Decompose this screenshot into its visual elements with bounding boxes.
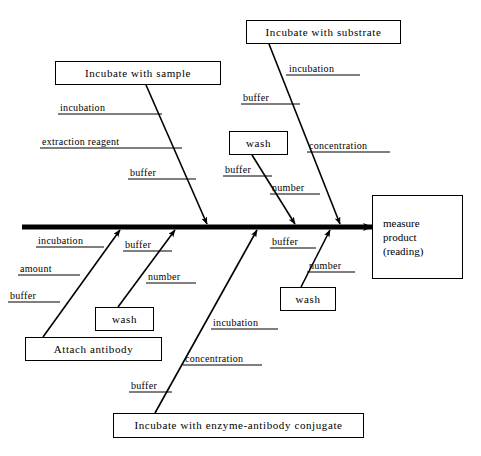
cause-label-attach-antibody-incubation[interactable]: incubation: [38, 236, 83, 246]
cause-label-incubate-with-sample-extraction reagent[interactable]: extraction reagent: [42, 137, 119, 147]
cause-label-wash-upper-number[interactable]: number: [272, 183, 304, 193]
cause-label-incubate-with-substrate-concentration[interactable]: concentration: [309, 141, 367, 151]
effect-line-0: measure: [383, 216, 423, 230]
cause-label-wash-right-buffer[interactable]: buffer: [272, 237, 298, 247]
category-box-wash-upper[interactable]: wash: [229, 131, 288, 155]
fishbone-diagram: Incubate with sampleIncubate with substr…: [0, 0, 481, 456]
effect-line-1: product: [383, 230, 423, 244]
cause-label-attach-antibody-buffer[interactable]: buffer: [10, 291, 36, 301]
category-label: Incubate with enzyme-antibody conjugate: [134, 419, 342, 432]
cause-label-attach-antibody-amount[interactable]: amount: [20, 264, 52, 274]
category-label: wash: [246, 137, 271, 150]
category-label: Incubate with sample: [85, 67, 191, 80]
category-box-incubate-with-sample[interactable]: Incubate with sample: [55, 61, 221, 85]
cause-label-incubate-with-substrate-buffer[interactable]: buffer: [243, 93, 269, 103]
cause-label-wash-upper-buffer[interactable]: buffer: [225, 165, 251, 175]
cause-label-incubate-with-sample-buffer[interactable]: buffer: [130, 168, 156, 178]
effect-box[interactable]: measureproduct(reading): [372, 195, 463, 279]
category-box-wash-lower[interactable]: wash: [95, 307, 154, 331]
cause-label-wash-right-number[interactable]: number: [309, 261, 341, 271]
category-label: wash: [295, 293, 320, 306]
cause-label-wash-lower-number[interactable]: number: [148, 272, 180, 282]
category-box-incubate-with-substrate[interactable]: Incubate with substrate: [246, 20, 401, 44]
category-label: wash: [112, 313, 137, 326]
branch-line-incubate-with-sample: [146, 85, 207, 224]
cause-label-incubate-with-conjugate-incubation[interactable]: incubation: [213, 318, 258, 328]
effect-line-2: (reading): [383, 244, 423, 258]
category-box-attach-antibody[interactable]: Attach antibody: [25, 337, 162, 361]
category-label: Attach antibody: [54, 343, 134, 356]
cause-label-incubate-with-sample-incubation[interactable]: incubation: [60, 103, 105, 113]
category-box-incubate-with-conjugate[interactable]: Incubate with enzyme-antibody conjugate: [113, 413, 364, 438]
category-label: Incubate with substrate: [266, 26, 382, 39]
branch-line-wash-right: [301, 230, 330, 287]
cause-label-incubate-with-conjugate-concentration[interactable]: concentration: [185, 354, 243, 364]
cause-label-incubate-with-substrate-incubation[interactable]: incubation: [289, 64, 334, 74]
category-box-wash-right[interactable]: wash: [280, 287, 336, 311]
cause-label-wash-lower-buffer[interactable]: buffer: [125, 240, 151, 250]
cause-label-incubate-with-conjugate-buffer[interactable]: buffer: [131, 381, 157, 391]
effect-text: measureproduct(reading): [383, 216, 423, 259]
